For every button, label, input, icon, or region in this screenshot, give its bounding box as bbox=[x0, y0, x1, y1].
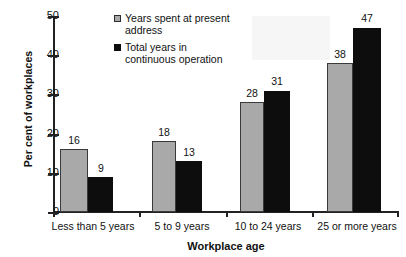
bar-group-3-series-a bbox=[327, 63, 353, 212]
legend-label-series-a: Years spent at present address bbox=[125, 13, 230, 36]
gray-square-swatch-icon bbox=[114, 15, 121, 22]
black-square-swatch-icon bbox=[114, 44, 121, 51]
bar-value-group-1-series-b: 13 bbox=[171, 147, 207, 158]
legend-item-series-a: Years spent at present address bbox=[114, 13, 264, 36]
legend: Years spent at present address Total yea… bbox=[114, 13, 264, 71]
y-axis-title: Per cent of workplaces bbox=[22, 19, 34, 199]
bar-value-group-0-series-a: 16 bbox=[56, 135, 92, 146]
legend-item-series-b: Total years in continuous operation bbox=[114, 42, 264, 65]
x-category-label-3: 25 or more years bbox=[310, 220, 404, 232]
x-axis-title: Workplace age bbox=[53, 240, 399, 252]
bar-chart: 50 40 30 20 10 0 Per cent of workplaces … bbox=[0, 0, 406, 257]
bar-group-2-series-a bbox=[240, 102, 264, 212]
x-category-label-2: 10 to 24 years bbox=[224, 220, 312, 232]
x-category-label-1: 5 to 9 years bbox=[139, 220, 225, 232]
x-category-label-0: Less than 5 years bbox=[47, 220, 139, 232]
bar-value-group-2-series-b: 31 bbox=[259, 76, 295, 87]
bar-value-group-3-series-b: 47 bbox=[349, 13, 385, 24]
bar-value-group-1-series-a: 18 bbox=[146, 127, 182, 138]
bar-group-0-series-a bbox=[60, 149, 88, 212]
bar-value-group-3-series-a: 38 bbox=[322, 49, 358, 60]
bar-group-1-series-b bbox=[176, 161, 202, 212]
bar-group-2-series-b bbox=[264, 91, 290, 213]
bar-value-group-0-series-b: 9 bbox=[83, 163, 119, 174]
bar-value-group-2-series-a: 28 bbox=[234, 88, 270, 99]
legend-label-series-b: Total years in continuous operation bbox=[125, 42, 223, 65]
bar-group-0-series-b bbox=[88, 177, 113, 212]
